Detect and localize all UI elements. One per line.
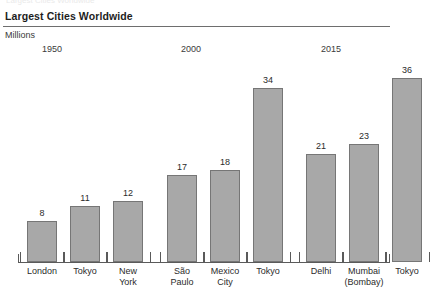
x-axis-tick	[290, 252, 291, 262]
bar-category-label-line2: Paulo	[170, 277, 193, 288]
bar	[27, 221, 57, 262]
year-label-1950: 1950	[42, 44, 62, 54]
x-axis-tick	[386, 252, 387, 262]
bar-value-label: 17	[177, 162, 187, 172]
bar	[349, 144, 379, 262]
bar	[70, 206, 100, 262]
bar-category-label: Tokyo	[73, 266, 97, 277]
x-axis-start-tick	[18, 254, 19, 262]
x-axis-tick	[160, 252, 161, 262]
x-axis-tick	[385, 252, 386, 262]
bar-category-label-line2: City	[211, 277, 240, 288]
bar-category-label-line1: New	[119, 266, 137, 276]
x-axis-tick	[203, 252, 204, 262]
x-axis-tick	[246, 252, 247, 262]
x-axis-tick	[63, 252, 64, 262]
bar-category-label-line1: Mexico	[211, 266, 240, 276]
bar-category-label-line1: Tokyo	[256, 266, 280, 276]
bar-category-label-line1: Delhi	[311, 266, 332, 276]
bar-category-label: Mumbai(Bombay)	[344, 266, 383, 288]
x-axis-tick	[107, 252, 108, 262]
bar-value-label: 11	[80, 193, 89, 203]
x-axis-tick	[64, 252, 65, 262]
x-axis-tick	[343, 252, 344, 262]
x-axis-tick	[247, 252, 248, 262]
year-label-2000: 2000	[181, 44, 201, 54]
bar-value-label: 8	[39, 208, 44, 218]
x-axis-tick	[20, 252, 21, 262]
bar-category-label: Delhi	[311, 266, 332, 277]
bar	[253, 88, 283, 262]
bar-category-label: Tokyo	[256, 266, 280, 277]
bar-value-label: 18	[220, 157, 230, 167]
x-axis-tick	[299, 252, 300, 262]
bar-category-label-line2: (Bombay)	[344, 277, 383, 288]
bar-category-label: MexicoCity	[211, 266, 240, 288]
bar-category-label-line1: London	[27, 266, 57, 276]
x-axis-end-tick	[389, 254, 390, 262]
bar	[113, 201, 143, 262]
x-axis-line	[18, 262, 390, 263]
x-axis-tick	[106, 252, 107, 262]
bar-value-label: 23	[359, 131, 369, 141]
bar-category-label: SãoPaulo	[170, 266, 193, 288]
bar-category-label-line2: York	[119, 277, 137, 288]
bar-category-label-line1: Mumbai	[348, 266, 380, 276]
bar	[392, 78, 422, 262]
bar	[210, 170, 240, 262]
bar-value-label: 34	[263, 75, 273, 85]
bar-value-label: 36	[402, 65, 412, 75]
bar-category-label: NewYork	[119, 266, 137, 288]
bar-category-label: Tokyo	[395, 266, 419, 277]
bar	[306, 154, 336, 262]
bar-value-label: 12	[123, 188, 133, 198]
bar-category-label-line1: Tokyo	[73, 266, 97, 276]
x-axis-tick	[204, 252, 205, 262]
bar-category-label-line1: Tokyo	[395, 266, 419, 276]
bar-value-label: 21	[316, 141, 326, 151]
year-label-2015: 2015	[321, 44, 341, 54]
bar-category-label-line1: São	[174, 266, 190, 276]
x-axis-tick	[342, 252, 343, 262]
x-axis-tick	[150, 252, 151, 262]
bar	[167, 175, 197, 262]
bar-category-label: London	[27, 266, 57, 277]
